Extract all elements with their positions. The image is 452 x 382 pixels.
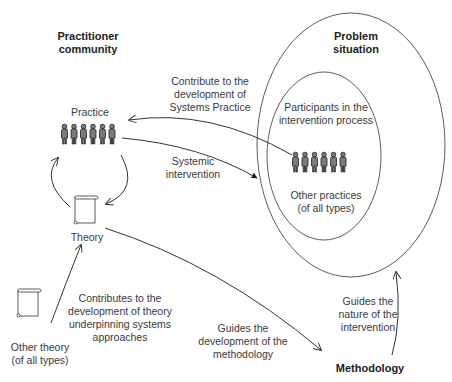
- contribute-practice-label: Contribute to the development of Systems…: [150, 75, 270, 114]
- other-theory-scroll-icon: [17, 289, 41, 317]
- theory-label: Theory: [62, 231, 112, 244]
- other-practices-label: Other practices (of all types): [286, 189, 366, 215]
- methodology-label: Methodology: [320, 362, 420, 375]
- guides-methodology-label: Guides the development of the methodolog…: [188, 322, 298, 361]
- arrow-theory-to-practice: [51, 158, 70, 207]
- other-theory-label: Other theory (of all types): [4, 341, 76, 367]
- practice-label: Practice: [60, 106, 120, 119]
- other-practices-people-icon: [293, 152, 347, 172]
- contributes-theory-label: Contributes to the development of theory…: [65, 292, 175, 344]
- systemic-intervention-label: Systemic intervention: [163, 155, 223, 181]
- arrow-practice-to-theory: [106, 155, 128, 204]
- practitioner-community-label: Practitioner community: [48, 30, 128, 56]
- practice-people-icon: [62, 124, 116, 144]
- guides-intervention-label: Guides the nature of the intervention: [333, 295, 403, 334]
- participants-label: Participants in the intervention process: [276, 101, 376, 127]
- problem-situation-label: Problem situation: [326, 30, 386, 56]
- theory-scroll-icon: [74, 196, 98, 224]
